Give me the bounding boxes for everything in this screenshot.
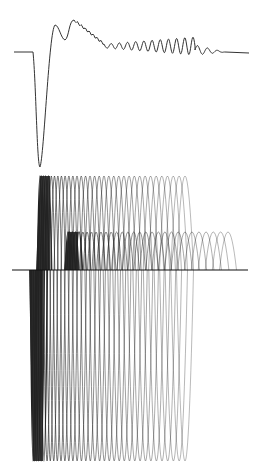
oscillogram-figure [0,0,262,475]
